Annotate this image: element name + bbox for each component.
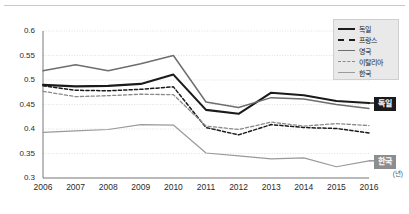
legend-item-korea[interactable]: 한국 <box>338 68 394 78</box>
legend-label-uk: 영국 <box>359 47 371 56</box>
legend-label-korea: 한국 <box>359 69 371 78</box>
x-tick-label: 2013 <box>256 183 286 192</box>
callout-leader-lines <box>369 103 375 161</box>
callout-badge-korea: 한국 <box>374 155 396 169</box>
x-tick-label: 2010 <box>158 183 188 192</box>
callout-badge-germany: 독일 <box>374 97 396 111</box>
x-tick-label: 2009 <box>126 183 156 192</box>
legend-line-swatch-germany-icon <box>338 25 355 33</box>
chart-legend: 독일 프랑스 영국 이탈리아 한국 <box>333 19 399 80</box>
axis-lines <box>43 31 369 178</box>
x-axis-unit-label: (년) <box>393 170 403 178</box>
y-tick-label: 0.6 <box>9 27 35 35</box>
legend-label-france: 프랑스 <box>359 36 377 45</box>
series-line-germany <box>43 75 369 114</box>
x-tick-label: 2016 <box>354 183 384 192</box>
series-line-uk <box>43 56 369 109</box>
x-tick-label: 2014 <box>289 183 319 192</box>
y-tick-label: 0.4 <box>9 125 35 133</box>
x-tick-label: 2007 <box>61 183 91 192</box>
legend-line-swatch-uk-icon <box>338 47 355 55</box>
legend-item-uk[interactable]: 영국 <box>338 46 394 56</box>
series-line-korea <box>43 125 369 167</box>
x-tick-label: 2006 <box>28 183 58 192</box>
y-tick-label: 0.5 <box>9 76 35 84</box>
legend-line-swatch-france-icon <box>338 36 355 44</box>
legend-item-germany[interactable]: 독일 <box>338 24 394 34</box>
legend-label-italy: 이탈리아 <box>359 58 383 67</box>
y-tick-label: 0.45 <box>9 101 35 109</box>
y-tick-label: 0.3 <box>9 174 35 182</box>
x-tick-label: 2012 <box>224 183 254 192</box>
legend-item-france[interactable]: 프랑스 <box>338 35 394 45</box>
legend-label-germany: 독일 <box>359 25 371 34</box>
x-tick-label: 2011 <box>191 183 221 192</box>
legend-line-swatch-italy-icon <box>338 58 355 66</box>
x-tick-label: 2015 <box>321 183 351 192</box>
legend-line-swatch-korea-icon <box>338 69 355 77</box>
x-tick-label: 2008 <box>93 183 123 192</box>
y-tick-label: 0.35 <box>9 150 35 158</box>
chart-figure: 0.60.550.50.450.40.350.3 200620072008200… <box>0 0 409 214</box>
gridlines <box>43 31 369 178</box>
series-lines <box>43 56 369 167</box>
y-tick-label: 0.55 <box>9 52 35 60</box>
legend-item-italy[interactable]: 이탈리아 <box>338 57 394 67</box>
